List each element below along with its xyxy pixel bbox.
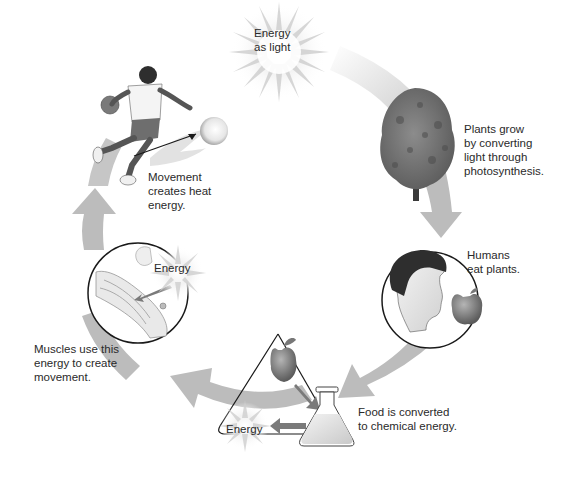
label-food: Food is converted to chemical energy.	[358, 405, 457, 433]
label-chemical-energy: Energy	[226, 423, 262, 435]
energy-cycle-diagram: Energy as light Plants grow by convertin…	[0, 0, 568, 482]
basketball-player-icon	[93, 66, 228, 185]
cycle-artwork	[0, 0, 568, 482]
label-plants: Plants grow by converting light through …	[464, 122, 544, 178]
label-movement: Movement creates heat energy.	[148, 170, 211, 212]
label-energy-as-light: Energy as light	[254, 26, 290, 54]
label-humans: Humans eat plants.	[467, 248, 520, 276]
label-muscles: Muscles use this energy to create moveme…	[34, 342, 119, 384]
label-muscle-energy: Energy	[154, 262, 190, 274]
